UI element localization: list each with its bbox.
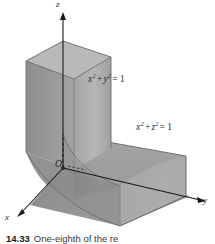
z-axis-arrowhead — [60, 12, 66, 20]
origin-label: O — [55, 159, 62, 169]
caption-text: One-eighth of the re — [34, 233, 119, 244]
axis-label-y: y — [203, 195, 207, 205]
eq-xz-value: 1 — [166, 122, 173, 132]
equation-label-cylinder-xy: x2+y2=1 — [88, 74, 126, 84]
eq-xy-value: 1 — [119, 74, 126, 84]
axis-label-z: z — [56, 0, 60, 9]
caption-number: 14.33 — [6, 233, 30, 244]
figure-caption: 14.33One-eighth of the re — [6, 233, 215, 244]
eq-xy-equals: = — [111, 74, 119, 84]
equation-label-cylinder-xz: x2+z2=1 — [136, 122, 173, 132]
axis-label-x: x — [5, 212, 9, 222]
